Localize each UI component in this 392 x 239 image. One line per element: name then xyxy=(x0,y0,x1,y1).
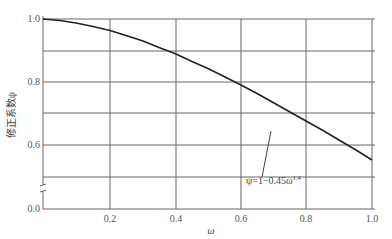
y-tick-labels: 1.0 0.8 0.6 0.0 xyxy=(28,13,41,214)
svg-text:0.6: 0.6 xyxy=(28,139,41,150)
x-axis-label: ω xyxy=(207,225,214,236)
x-tick-labels: 0.2 0.4 0.6 0.8 1.0 xyxy=(104,213,379,224)
curve-psi xyxy=(43,19,372,160)
y-axis-label: 修正系数ψ xyxy=(5,91,17,138)
annotation-label: ψ=1−0.45ω1.4 xyxy=(246,174,302,186)
annotation-leader xyxy=(262,131,271,177)
vertical-gridlines xyxy=(110,19,372,209)
chart: ψ=1−0.45ω1.4 1.0 0.8 0.6 0.0 0.2 0.4 0.6… xyxy=(0,0,392,239)
svg-text:0.8: 0.8 xyxy=(300,213,313,224)
svg-text:0.0: 0.0 xyxy=(28,203,41,214)
horizontal-gridlines xyxy=(43,19,375,209)
svg-text:1.0: 1.0 xyxy=(366,213,379,224)
svg-text:0.6: 0.6 xyxy=(235,213,248,224)
svg-text:0.8: 0.8 xyxy=(28,76,41,87)
svg-text:0.4: 0.4 xyxy=(170,213,183,224)
svg-text:1.0: 1.0 xyxy=(28,13,41,24)
svg-text:0.2: 0.2 xyxy=(104,213,117,224)
